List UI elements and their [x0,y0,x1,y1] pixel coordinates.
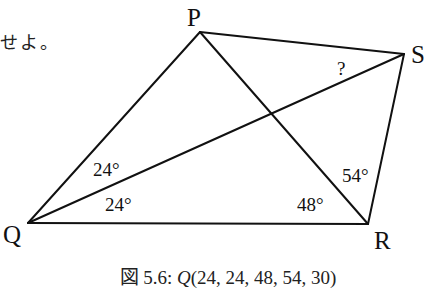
caption-prefix: 図 5.6: [120,267,178,288]
segment-QS [28,54,404,223]
vertex-label-S: S [411,41,425,68]
figure-caption: 図 5.6: Q(24, 24, 48, 54, 30) [60,262,396,289]
segment-QR [28,223,368,224]
figure-segments [28,32,404,224]
caption-args: (24, 24, 48, 54, 30) [191,267,337,288]
vertex-label-P: P [187,4,201,31]
segment-RS [368,54,404,224]
angle-label-PRS: 54° [342,165,369,186]
angle-label-PQS: 24° [93,159,120,180]
angle-label-SQR: 24° [105,194,132,215]
segment-PS [200,32,404,54]
angle-label-QRP: 48° [297,194,324,215]
angle-label-unknown: ? [337,58,345,79]
geometry-figure: P S Q R 24° 24° 48° 54° ? [0,0,436,297]
vertex-label-Q: Q [3,221,21,248]
vertex-label-R: R [374,227,391,254]
caption-function: Q [177,267,191,288]
